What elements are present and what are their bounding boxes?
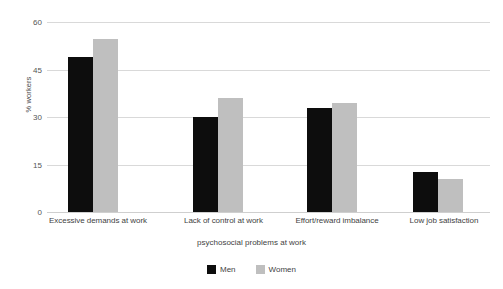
y-tick-label-15: 15 (18, 160, 42, 169)
plot-area (47, 22, 490, 212)
bar-men-lack-of-control-at-work (193, 117, 218, 212)
gridline-baseline-0 (47, 212, 490, 213)
x-axis-title: psychosocial problems at work (0, 238, 503, 247)
y-tick-label-30: 30 (18, 113, 42, 122)
gray-square-swatch (256, 265, 265, 274)
legend-item-women: Women (256, 265, 296, 274)
chart-legend: Men Women (0, 265, 503, 274)
y-tick-label-45: 45 (18, 65, 42, 74)
bar-women-lack-of-control-at-work (218, 98, 243, 212)
y-tick-label-60: 60 (18, 18, 42, 27)
bar-men-effort-reward-imbalance (307, 108, 332, 213)
category-label-effort-reward-imbalance: Effort/reward imbalance (272, 216, 402, 225)
black-square-swatch (207, 265, 216, 274)
bar-women-effort-reward-imbalance (332, 103, 357, 212)
gridline-60 (47, 22, 490, 23)
legend-label-women: Women (269, 265, 296, 274)
bar-women-excessive-demands-at-work (93, 39, 118, 212)
bar-women-low-job-satisfaction (438, 179, 463, 212)
bar-men-excessive-demands-at-work (68, 57, 93, 212)
bar-men-low-job-satisfaction (413, 172, 438, 212)
category-label-excessive-demands-at-work: Excessive demands at work (28, 216, 168, 225)
category-label-lack-of-control-at-work: Lack of control at work (156, 216, 291, 225)
bar-chart: % workers 60 45 30 15 0 Excessive demand… (0, 0, 503, 289)
legend-label-men: Men (220, 265, 236, 274)
legend-item-men: Men (207, 265, 236, 274)
category-label-low-job-satisfaction: Low job satisfaction (384, 216, 503, 225)
